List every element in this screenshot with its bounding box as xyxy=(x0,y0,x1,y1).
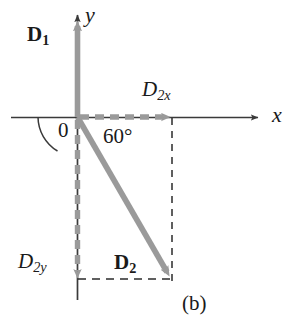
label-vector-D2y: D2y xyxy=(18,251,47,274)
angle-arc xyxy=(38,117,58,151)
label-vector-D2: D2 xyxy=(114,252,136,275)
figure-caption: (b) xyxy=(182,293,207,314)
label-origin: 0 xyxy=(58,120,69,141)
diagram-canvas xyxy=(0,0,304,327)
label-vector-D1: D1 xyxy=(27,24,49,47)
vector-diagram-figure: D1 y x 0 60° D2x D2y D2 (b) xyxy=(0,0,304,327)
label-x-axis: x xyxy=(272,104,282,126)
label-vector-D2x: D2x xyxy=(142,79,171,102)
label-y-axis: y xyxy=(85,4,95,26)
label-angle-60: 60° xyxy=(103,126,132,147)
